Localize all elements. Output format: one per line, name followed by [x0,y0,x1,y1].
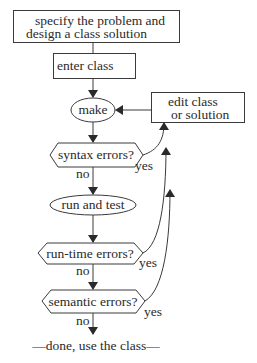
syntax-yes-label: yes [135,158,153,173]
run-and-test-label: run and test [62,197,125,212]
flowchart: specify the problem and design a class s… [0,0,257,363]
edge-semantic-edit [145,190,170,301]
done-label: —done, use the class— [31,338,160,353]
semantic-yes-label: yes [144,304,162,319]
semantic-no-label: no [76,313,90,328]
runtime-no-label: no [76,263,90,278]
specify-line2: design a class solution [26,26,147,41]
runtime-yes-label: yes [139,255,157,270]
enter-class-label: enter class [57,58,114,73]
semantic-errors-label: semantic errors? [49,294,138,309]
edit-line2: or solution [171,107,229,122]
syntax-errors-label: syntax errors? [58,147,134,162]
runtime-errors-label: run-time errors? [46,246,133,261]
make-label: make [78,102,107,117]
syntax-no-label: no [76,166,90,181]
edge-syntax-edit [143,123,164,155]
